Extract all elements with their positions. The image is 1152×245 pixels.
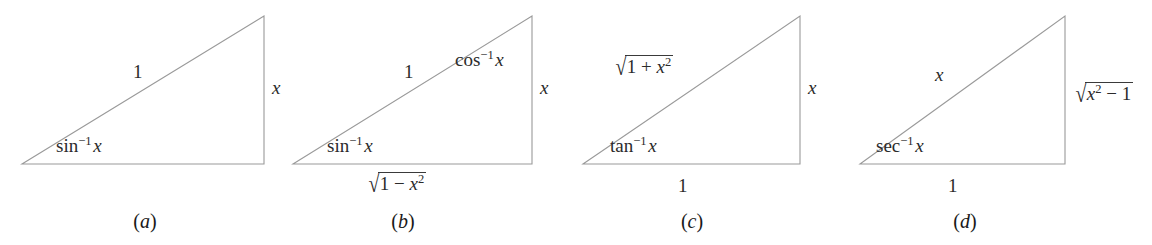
- inverse-trig-triangles-figure: 1 x sin−1 x (a) 1 x sin−1 x cos−1 x √: [0, 0, 1152, 245]
- panel-caption-d: (d): [953, 210, 976, 233]
- caption-letter-d: d: [960, 210, 970, 232]
- radicand-d: x2 − 1: [1085, 82, 1133, 103]
- radical-expression-d: √x2 − 1: [1073, 82, 1133, 104]
- caption-close-paren-d: ): [970, 210, 977, 232]
- angle-arg-d: x: [915, 135, 923, 156]
- base-value-d: 1: [948, 175, 958, 196]
- hypotenuse-value-d: x: [935, 64, 943, 85]
- label-vertical-side-d: √x2 − 1: [1073, 82, 1133, 104]
- angle-fn-d: sec: [876, 135, 900, 156]
- caption-open-paren-d: (: [953, 210, 960, 232]
- label-base-d: 1: [948, 176, 958, 195]
- angle-exp-d: −1: [900, 134, 913, 148]
- radicand-post-d: − 1: [1102, 83, 1132, 104]
- label-angle-d: sec−1 x: [876, 136, 924, 155]
- label-hypotenuse-d: x: [935, 65, 943, 84]
- triangle-outline-d: [0, 0, 1152, 245]
- radical-sign-d: √: [1075, 84, 1086, 103]
